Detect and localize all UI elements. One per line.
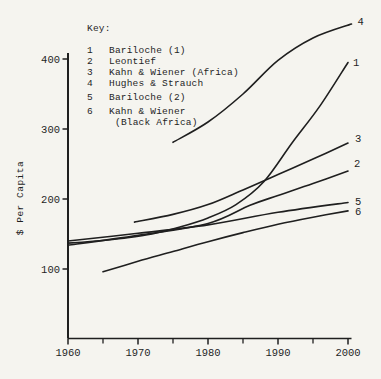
key-items: 1Bariloche (1)2Leontief3Kahn & Wiener (A… [87, 45, 239, 128]
x-tick-label-1980: 1980 [195, 347, 220, 359]
key-item-label: Leontief [109, 56, 156, 67]
chart-figure: 10020030040019601970198019902000$ Per Ca… [0, 0, 381, 379]
key-item-sublabel: (Black Africa) [87, 117, 239, 128]
series-line-bariloche-2 [68, 203, 348, 242]
key-item-number: 6 [87, 106, 109, 117]
y-tick-label-400: 400 [41, 54, 60, 66]
x-tick-label-1970: 1970 [125, 347, 150, 359]
key-item-number: 4 [87, 78, 109, 89]
series-end-label-kahn-wiener-black-africa: 6 [355, 206, 361, 218]
x-tick-label-1960: 1960 [55, 347, 80, 359]
key-item-1: 1Bariloche (1) [87, 45, 239, 56]
key-item-label: Hughes & Strauch [109, 78, 203, 89]
key-item-label: Kahn & Wiener [109, 106, 186, 117]
key-item-number: 5 [87, 92, 109, 103]
key-item-label: Kahn & Wiener (Africa) [109, 67, 239, 78]
y-tick-label-200: 200 [41, 194, 60, 206]
y-tick-label-300: 300 [41, 124, 60, 136]
key-title: Key: [87, 23, 239, 34]
key-item-number: 1 [87, 45, 109, 56]
key-item-6: 6Kahn & Wiener [87, 106, 239, 117]
y-tick-label-100: 100 [41, 264, 60, 276]
series-line-kahn-wiener-black-africa [103, 211, 348, 272]
key-item-2: 2Leontief [87, 56, 239, 67]
x-tick-label-2000: 2000 [335, 347, 360, 359]
chart-key: Key: 1Bariloche (1)2Leontief3Kahn & Wien… [87, 23, 239, 128]
key-item-5: 5Bariloche (2) [87, 92, 239, 103]
x-tick-label-1990: 1990 [265, 347, 290, 359]
series-end-label-kahn-wiener-africa: 3 [355, 133, 361, 145]
key-item-3: 3Kahn & Wiener (Africa) [87, 67, 239, 78]
key-item-label: Bariloche (2) [109, 92, 186, 103]
key-item-label: Bariloche (1) [109, 45, 186, 56]
series-end-label-hughes-strauch: 4 [358, 16, 364, 28]
y-axis-label: $ Per Capita [15, 161, 26, 235]
series-end-label-leontief: 2 [354, 158, 360, 170]
key-item-4: 4Hughes & Strauch [87, 78, 239, 89]
series-end-label-bariloche-1: 1 [353, 57, 359, 69]
key-item-number: 3 [87, 67, 109, 78]
key-item-number: 2 [87, 56, 109, 67]
